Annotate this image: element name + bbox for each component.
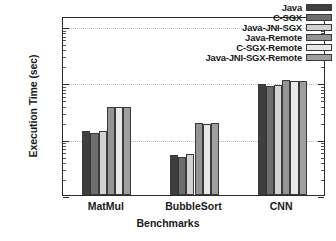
bar [107, 107, 115, 195]
legend-label: Java [282, 3, 302, 12]
legend-label: C-SGX [273, 13, 302, 22]
legend-swatch [306, 14, 332, 21]
legend-swatch [306, 4, 332, 11]
bar [282, 80, 290, 195]
legend-swatch [306, 44, 332, 51]
bar-chart-figure: Execution Time (sec) 0.1110100 MatMulBub… [0, 0, 336, 241]
legend-item: Java-Remote [245, 33, 332, 42]
legend-label: C-SGX-Remote [236, 43, 302, 52]
chart-legend: JavaC-SGXJava-JNI-SGXJava-RemoteC-SGX-Re… [205, 3, 332, 62]
legend-item: C-SGX [273, 13, 332, 22]
bar [82, 131, 90, 195]
y-axis-tick [63, 197, 69, 198]
x-axis-group-label: CNN [270, 200, 293, 212]
bar [299, 81, 307, 195]
legend-swatch [306, 54, 332, 61]
bar [274, 85, 282, 195]
legend-swatch [306, 34, 332, 41]
legend-item: Java-JNI-SGX-Remote [205, 53, 332, 62]
bar [290, 81, 298, 195]
bar [123, 107, 131, 195]
bar [99, 131, 107, 195]
bar [266, 86, 274, 195]
bar [211, 123, 219, 195]
bar [90, 133, 98, 195]
bar [258, 84, 266, 195]
legend-label: Java-JNI-SGX [242, 23, 302, 32]
bar [186, 154, 194, 195]
legend-item: C-SGX-Remote [236, 43, 332, 52]
x-axis-group-label: MatMul [88, 200, 124, 212]
legend-swatch [306, 24, 332, 31]
legend-item: Java-JNI-SGX [242, 23, 332, 32]
bar [170, 155, 178, 195]
x-axis-title: Benchmarks [0, 217, 336, 229]
bar [195, 123, 203, 195]
x-axis-group-label: BubbleSort [165, 200, 222, 212]
bar [178, 157, 186, 195]
y-axis-tick [318, 197, 324, 198]
bar [203, 124, 211, 195]
y-axis-title: Execution Time (sec) [27, 26, 39, 186]
legend-item: Java [282, 3, 332, 12]
bar [115, 107, 123, 195]
legend-label: Java-JNI-SGX-Remote [205, 53, 302, 62]
legend-label: Java-Remote [245, 33, 302, 42]
